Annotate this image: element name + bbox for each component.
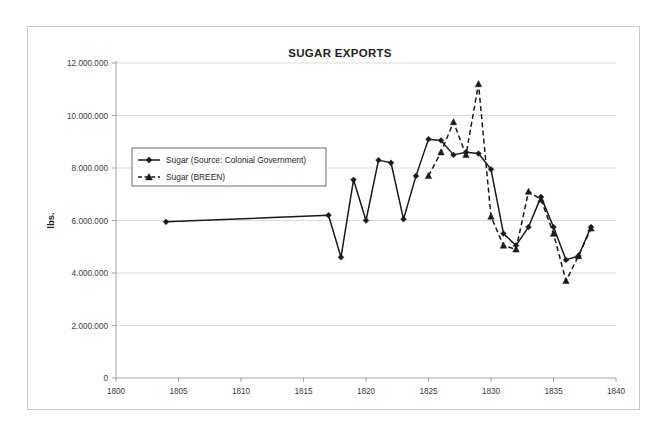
- data-point-marker-diamond: [563, 257, 569, 263]
- x-tick-labels-group: 180018051810181518201825183018351840: [107, 387, 626, 396]
- data-point-marker-diamond: [163, 219, 169, 225]
- data-point-marker-triangle: [563, 277, 569, 283]
- chart-legend: Sugar (Source: Colonial Government)Sugar…: [132, 148, 326, 186]
- y-tick-label: 0: [103, 374, 108, 383]
- y-tick-labels-group: 02.000.0004.000.0006.000.0008.000.00010.…: [67, 59, 108, 383]
- x-tick-label: 1835: [544, 387, 563, 396]
- data-point-marker-diamond: [326, 212, 332, 218]
- y-tick-label: 6.000.000: [72, 217, 109, 226]
- legend-box: [132, 148, 326, 186]
- data-point-marker-diamond: [413, 173, 419, 179]
- data-point-marker-triangle: [450, 119, 456, 125]
- x-tick-label: 1825: [419, 387, 438, 396]
- y-tick-label: 12.000.000: [67, 59, 108, 68]
- x-tick-label: 1840: [607, 387, 626, 396]
- x-tick-label: 1820: [357, 387, 376, 396]
- x-tick-label: 1815: [294, 387, 313, 396]
- data-point-marker-diamond: [376, 157, 382, 163]
- chart-canvas: SUGAR EXPORTS 02.000.0004.000.0006.000.0…: [28, 27, 639, 409]
- x-tick-label: 1810: [232, 387, 251, 396]
- y-tick-label: 8.000.000: [72, 164, 109, 173]
- legend-item-label: Sugar (BREEN): [166, 172, 225, 182]
- data-point-marker-diamond: [426, 136, 432, 142]
- legend-item-label: Sugar (Source: Colonial Government): [166, 155, 306, 165]
- data-point-marker-triangle: [488, 213, 494, 219]
- data-point-marker-diamond: [363, 218, 369, 224]
- data-point-marker-triangle: [425, 172, 431, 178]
- y-tick-label: 4.000.000: [72, 269, 109, 278]
- y-axis-title: lbs.: [45, 212, 56, 228]
- series-polyline: [429, 84, 592, 281]
- data-point-marker-diamond: [338, 254, 344, 260]
- data-point-marker-triangle: [475, 81, 481, 87]
- y-tick-label: 10.000.000: [67, 112, 108, 121]
- chart-figure: SUGAR EXPORTS 02.000.0004.000.0006.000.0…: [27, 26, 640, 410]
- data-point-marker-diamond: [388, 160, 394, 166]
- series-2: [425, 81, 594, 284]
- data-point-marker-triangle: [525, 188, 531, 194]
- data-point-marker-triangle: [500, 242, 506, 248]
- x-tick-marks-group: [116, 378, 616, 382]
- y-tick-marks-group: [112, 63, 116, 378]
- data-point-marker-diamond: [401, 216, 407, 222]
- data-point-marker-triangle: [513, 246, 519, 252]
- data-point-marker-triangle: [438, 149, 444, 155]
- x-tick-label: 1800: [107, 387, 126, 396]
- y-tick-label: 2.000.000: [72, 322, 109, 331]
- x-tick-label: 1830: [482, 387, 501, 396]
- x-tick-label: 1805: [169, 387, 188, 396]
- data-point-marker-diamond: [351, 177, 357, 183]
- chart-title: SUGAR EXPORTS: [288, 47, 392, 59]
